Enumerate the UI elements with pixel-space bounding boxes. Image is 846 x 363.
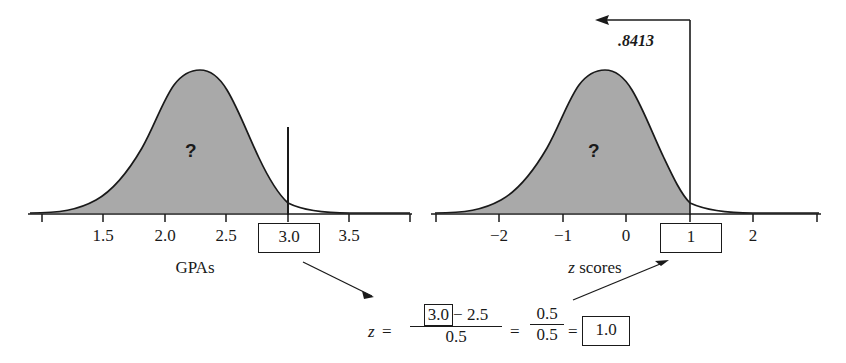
z-tick-label-3: 0 xyxy=(596,226,656,246)
z-axis-ticks xyxy=(436,214,817,222)
gpa-tick-label-3: 2.5 xyxy=(196,226,256,246)
gpa-tick-label-5: 3.5 xyxy=(319,226,379,246)
formula-equals-2: = xyxy=(510,322,520,342)
formula-result-box: 1.0 xyxy=(582,316,630,346)
z-axis-title-symbol: z xyxy=(568,258,575,277)
formula-equals-3: = xyxy=(568,322,578,342)
formula-fraction-1-numerator: 3.0− 2.5 xyxy=(410,304,502,326)
z-cut-value-box: 1 xyxy=(660,223,722,253)
z-axis-title: z scores xyxy=(525,258,665,278)
arrow-gpa-to-formula xyxy=(303,262,374,299)
z-distribution-panel: −2 −1 0 2 1 ? .8413 z scores xyxy=(423,0,846,300)
gpa-tick-label-2: 2.0 xyxy=(135,226,195,246)
formula-numerator-boxed-value: 3.0 xyxy=(424,304,453,326)
gpa-shaded-region xyxy=(30,70,288,213)
gpa-cut-value-box: 3.0 xyxy=(258,223,320,253)
formula-fraction-2-denominator: 0.5 xyxy=(530,324,564,345)
formula-fraction-2-numerator: 0.5 xyxy=(530,304,564,324)
z-tick-label-1: −2 xyxy=(469,226,529,246)
z-shaded-region xyxy=(435,70,690,213)
gpa-curve-svg xyxy=(0,0,423,300)
probability-label: .8413 xyxy=(618,32,654,50)
formula-equals-1: = xyxy=(382,322,392,342)
formula-numerator-rest: − 2.5 xyxy=(453,305,488,324)
formula-lhs: z xyxy=(368,322,375,342)
z-tick-label-5: 2 xyxy=(723,226,783,246)
formula-fraction-1-denominator: 0.5 xyxy=(410,326,502,347)
gpa-tick-label-1: 1.5 xyxy=(73,226,133,246)
gpa-axis-title: GPAs xyxy=(125,258,265,278)
gpa-distribution-panel: 1.5 2.0 2.5 3.5 3.0 ? GPAs xyxy=(0,0,423,300)
z-axis-title-rest: scores xyxy=(575,258,622,277)
z-tick-label-2: −1 xyxy=(533,226,593,246)
z-shaded-question-mark: ? xyxy=(588,140,600,162)
gpa-axis-ticks xyxy=(42,214,410,222)
gpa-shaded-question-mark: ? xyxy=(185,140,197,162)
formula-fraction-1: 3.0− 2.5 0.5 xyxy=(410,304,502,347)
probability-arrow xyxy=(595,15,690,25)
figure-canvas: 1.5 2.0 2.5 3.5 3.0 ? GPAs xyxy=(0,0,846,363)
formula-fraction-2: 0.5 0.5 xyxy=(530,304,564,345)
z-score-formula: z = 3.0− 2.5 0.5 = 0.5 0.5 = 1.0 xyxy=(368,300,628,360)
